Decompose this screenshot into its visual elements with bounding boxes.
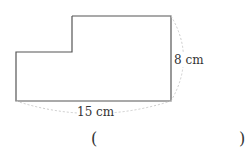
shape-outline xyxy=(16,16,171,101)
answer-close-paren: ) xyxy=(239,129,245,148)
height-label: 8 cm xyxy=(174,53,204,67)
width-label: 15 cm xyxy=(77,105,114,119)
answer-open-paren: ( xyxy=(91,129,97,148)
answer-blank[interactable] xyxy=(102,131,237,151)
